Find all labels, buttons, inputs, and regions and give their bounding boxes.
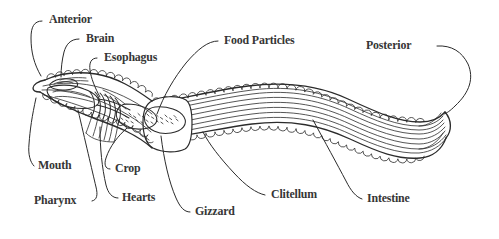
leader-intestine xyxy=(313,120,362,199)
label-crop: Crop xyxy=(115,161,140,175)
label-clitellum: Clitellum xyxy=(271,187,317,201)
label-brain: Brain xyxy=(86,31,114,45)
label-intestine: Intestine xyxy=(367,191,410,205)
leader-esophagus xyxy=(90,58,100,97)
leader-mouth xyxy=(29,98,36,166)
leader-brain xyxy=(61,39,79,77)
leader-pharynx xyxy=(78,110,97,201)
posterior-internal-longitudinal-lines xyxy=(152,88,446,153)
ventral-segment-scallops xyxy=(161,126,424,163)
leader-posterior xyxy=(437,46,471,114)
worm-body-group xyxy=(33,69,450,163)
label-food-particles: Food Particles xyxy=(224,33,294,47)
label-esophagus: Esophagus xyxy=(104,50,157,64)
label-pharynx: Pharynx xyxy=(34,193,76,207)
label-hearts: Hearts xyxy=(122,190,155,204)
label-anterior: Anterior xyxy=(49,12,92,26)
label-gizzard: Gizzard xyxy=(195,204,235,218)
earthworm-anatomy-figure: .ln { fill:none; stroke:#2b2b2b; stroke-… xyxy=(0,0,499,239)
leader-clitellum xyxy=(203,132,265,195)
leader-anterior xyxy=(31,21,42,76)
label-posterior: Posterior xyxy=(366,38,411,52)
label-mouth: Mouth xyxy=(38,158,71,172)
